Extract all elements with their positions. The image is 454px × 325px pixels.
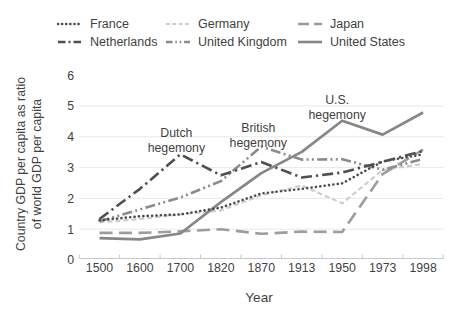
legend-label-united-kingdom: United Kingdom	[198, 35, 287, 49]
annotation-us-line2: hegemony	[308, 108, 366, 122]
legend-swatch-netherlands	[57, 38, 83, 46]
legend-label-united-states: United States	[330, 35, 405, 49]
legend-label-japan: Japan	[330, 17, 364, 31]
tick-labels: 0123456150016001700182018701913195019731…	[67, 69, 437, 276]
x-tick-label-1820: 1820	[207, 261, 235, 275]
legend-swatch-japan	[297, 20, 323, 28]
legend-item-germany: Germany	[165, 15, 297, 33]
legend-swatch-france	[57, 20, 83, 28]
y-tick-label-5: 5	[67, 99, 74, 113]
annotation-british-line1: British	[241, 121, 275, 135]
y-axis-title-line2: of world GDP per capita	[30, 99, 44, 229]
x-axis	[79, 255, 444, 259]
legend-item-united-states: United States	[297, 33, 427, 51]
y-tick-label-0: 0	[67, 253, 74, 267]
y-tick-label-6: 6	[67, 69, 74, 83]
x-tick-label-1600: 1600	[126, 261, 154, 275]
legend-label-germany: Germany	[198, 17, 249, 31]
legend-label-france: France	[90, 17, 129, 31]
annotation-us-line1: U.S.	[325, 93, 349, 107]
x-tick-label-1913: 1913	[288, 261, 316, 275]
y-tick-label-2: 2	[67, 192, 74, 206]
legend-swatch-united-kingdom	[165, 38, 191, 46]
y-tick-label-4: 4	[67, 130, 74, 144]
x-tick-label-1500: 1500	[86, 261, 114, 275]
chart-legend: France Germany Japan Netherlands United …	[57, 15, 427, 51]
annotation-dutch-line1: Dutch	[160, 126, 192, 140]
annotation-dutch-line2: hegemony	[148, 141, 206, 155]
legend-swatch-germany	[165, 20, 191, 28]
x-axis-title: Year	[245, 290, 273, 305]
legend-item-japan: Japan	[297, 15, 427, 33]
annotation-british-line2: hegemony	[230, 136, 288, 150]
gdp-ratio-line-chart: Country GDP per capita as ratio of world…	[0, 60, 454, 325]
y-axis-title-line1: Country GDP per capita as ratio	[14, 77, 28, 251]
x-tick-label-1973: 1973	[369, 261, 397, 275]
x-tick-label-1700: 1700	[167, 261, 195, 275]
x-tick-label-1950: 1950	[329, 261, 357, 275]
y-tick-label-3: 3	[67, 161, 74, 175]
x-tick-label-1998: 1998	[409, 261, 437, 275]
legend-item-united-kingdom: United Kingdom	[165, 33, 297, 51]
x-tick-label-1870: 1870	[248, 261, 276, 275]
legend-label-netherlands: Netherlands	[90, 35, 157, 49]
y-tick-label-1: 1	[67, 223, 74, 237]
legend-item-netherlands: Netherlands	[57, 33, 165, 51]
legend-item-france: France	[57, 15, 165, 33]
legend-swatch-united-states	[297, 38, 323, 46]
annotations: DutchhegemonyBritishhegemonyU.S.hegemony	[148, 93, 367, 155]
